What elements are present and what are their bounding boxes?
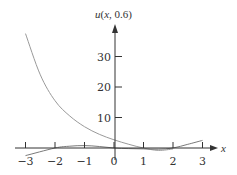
series-layer: [26, 34, 203, 156]
chart: −3−2−10123 102030 x u(x, 0.6): [0, 0, 237, 175]
x-tick-label: 3: [199, 155, 206, 168]
x-ticks: −3−2−10123: [17, 142, 206, 168]
y-ticks: 102030: [97, 51, 122, 125]
y-axis-arrow-icon: [112, 24, 118, 33]
x-axis-label: x: [220, 142, 226, 154]
x-tick-label: −2: [47, 155, 63, 168]
x-tick-label: 1: [140, 155, 147, 168]
y-tick-label: 20: [97, 81, 111, 94]
x-tick-label: 2: [170, 155, 177, 168]
x-tick-label: −3: [17, 155, 33, 168]
axes: [15, 24, 218, 160]
y-tick-label: 30: [97, 51, 111, 64]
y-axis-label: u(x, 0.6): [95, 8, 132, 21]
y-tick-label: 10: [97, 112, 111, 125]
x-axis-arrow-icon: [210, 145, 218, 151]
x-tick-label: −1: [76, 155, 92, 168]
x-tick-label: 0: [111, 155, 118, 168]
